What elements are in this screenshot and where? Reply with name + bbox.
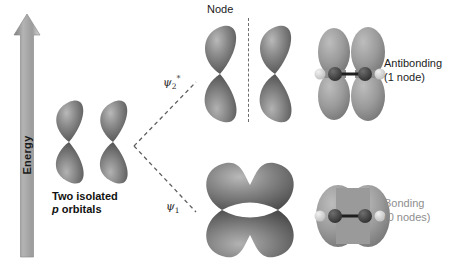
bonding-detail: (0 nodes): [384, 211, 430, 223]
psi-2-subscript: 2: [172, 82, 177, 91]
antibonding-detail: (1 node): [384, 71, 425, 83]
bonding-density-surface: [318, 172, 390, 260]
antibonding-lobe-right: [260, 26, 292, 123]
psi-2-symbol: ψ: [163, 76, 172, 89]
bonding-title: Bonding: [384, 197, 424, 209]
psi-1-label: ψ1: [166, 200, 179, 215]
molecular-orbital-diagram: Energy Node: [0, 0, 462, 269]
p-orbital-right: [100, 100, 128, 183]
psi-1-subscript: 1: [175, 206, 180, 215]
isolated-caption-line2: orbitals: [59, 203, 102, 215]
psi-1-symbol: ψ: [166, 200, 175, 213]
isolated-p-orbitals: [48, 96, 138, 188]
bonding-upper-lobes: [206, 163, 294, 210]
p-orbital-left: [56, 100, 84, 183]
antibonding-density-surface: [318, 24, 390, 124]
isolated-caption-italic-p: p: [52, 203, 59, 215]
antibonding-lobe-left: [205, 26, 237, 123]
bonding-caption: Bonding (0 nodes): [384, 196, 430, 224]
isolated-caption-line1: Two isolated: [52, 190, 118, 202]
bonding-orbital-pair: [196, 158, 304, 262]
psi-2-star: *: [176, 74, 180, 83]
psi-2-star-label: ψ2*: [163, 74, 180, 91]
antibonding-caption: Antibonding (1 node): [384, 56, 442, 84]
bonding-lower-lobes: [206, 210, 294, 257]
antibonding-title: Antibonding: [384, 57, 442, 69]
antibonding-orbital-pair: [196, 22, 300, 126]
isolated-orbitals-caption: Two isolated p orbitals: [52, 190, 118, 216]
